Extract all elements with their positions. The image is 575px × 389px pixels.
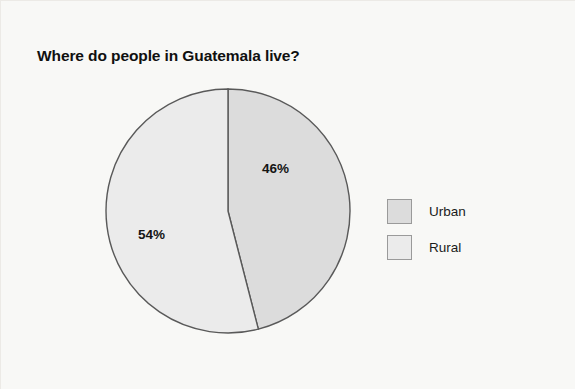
pie-label-urban: 46% bbox=[262, 161, 289, 176]
legend-swatch-urban bbox=[387, 199, 412, 224]
pie-chart-svg bbox=[106, 89, 350, 333]
legend-item-rural[interactable]: Rural bbox=[387, 229, 537, 265]
legend-swatch-rural bbox=[387, 235, 412, 260]
pie-label-rural: 54% bbox=[138, 227, 165, 242]
chart-legend: Urban Rural bbox=[387, 193, 537, 265]
page-title: Where do people in Guatemala live? bbox=[37, 47, 300, 65]
pie-chart: 46% 54% bbox=[106, 89, 350, 333]
chart-figure: Where do people in Guatemala live? 46% 5… bbox=[0, 0, 575, 389]
legend-label-rural: Rural bbox=[429, 240, 461, 255]
legend-label-urban: Urban bbox=[429, 204, 466, 219]
legend-item-urban[interactable]: Urban bbox=[387, 193, 537, 229]
